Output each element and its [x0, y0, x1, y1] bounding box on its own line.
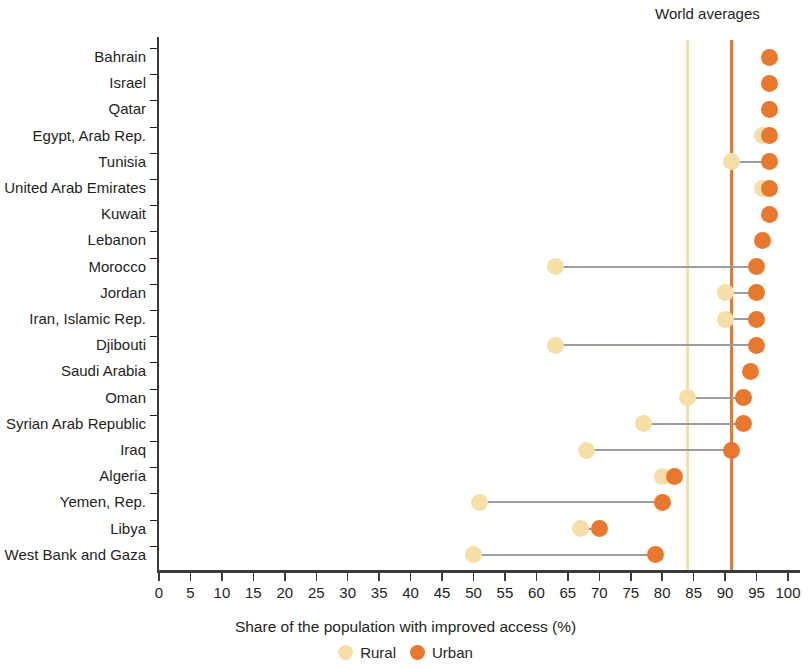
x-axis-tick [347, 573, 349, 581]
x-axis-tick-label: 45 [434, 584, 451, 601]
data-point-urban[interactable] [723, 442, 740, 459]
category-label-bahrain: Bahrain [0, 46, 146, 68]
category-label-libya: Libya [0, 518, 146, 540]
x-axis-tick-label: 75 [622, 584, 639, 601]
data-point-urban[interactable] [761, 75, 778, 92]
x-axis-tick [316, 573, 318, 581]
data-point-urban[interactable] [748, 258, 765, 275]
data-point-urban[interactable] [761, 101, 778, 118]
x-axis-tick-label: 35 [371, 584, 388, 601]
data-point-rural[interactable] [717, 311, 734, 328]
data-point-urban[interactable] [754, 232, 771, 249]
x-axis-tick-label: 70 [591, 584, 608, 601]
data-point-rural[interactable] [465, 546, 482, 563]
x-axis-tick-label: 80 [654, 584, 671, 601]
category-label-yemen-rep: Yemen, Rep. [0, 491, 146, 513]
data-point-rural[interactable] [578, 442, 595, 459]
x-axis-tick [787, 573, 789, 581]
y-axis-tick [150, 493, 157, 494]
x-axis-tick-label: 25 [308, 584, 325, 601]
y-axis-tick [150, 336, 157, 337]
category-label-kuwait: Kuwait [0, 203, 146, 225]
x-axis-tick [661, 573, 663, 581]
chart-legend: Rural Urban [0, 644, 811, 661]
connector-line [587, 449, 732, 451]
data-point-urban[interactable] [748, 284, 765, 301]
data-point-urban[interactable] [748, 311, 765, 328]
category-label-qatar: Qatar [0, 98, 146, 120]
x-axis-tick-label: 20 [276, 584, 293, 601]
dumbbell-chart: World averages BahrainIsraelQatarEgypt, … [0, 0, 811, 669]
x-axis-tick [441, 573, 443, 581]
x-axis-tick [630, 573, 632, 581]
x-axis-tick-label: 5 [186, 584, 194, 601]
data-point-urban[interactable] [761, 153, 778, 170]
data-point-urban[interactable] [654, 494, 671, 511]
data-point-rural[interactable] [635, 415, 652, 432]
legend-label-rural: Rural [360, 644, 396, 661]
y-axis-tick [150, 441, 157, 442]
x-axis-tick [378, 573, 380, 581]
x-axis-tick-label: 30 [339, 584, 356, 601]
category-label-iran-islamic-rep: Iran, Islamic Rep. [0, 308, 146, 330]
data-point-urban[interactable] [748, 337, 765, 354]
data-point-urban[interactable] [666, 468, 683, 485]
y-axis-tick [150, 127, 157, 128]
x-axis-title: Share of the population with improved ac… [0, 618, 811, 636]
data-point-rural[interactable] [547, 337, 564, 354]
category-label-west-bank-and-gaza: West Bank and Gaza [0, 544, 146, 566]
y-axis-tick [150, 48, 157, 49]
category-label-oman: Oman [0, 387, 146, 409]
x-axis-tick [599, 573, 601, 581]
y-axis-tick [150, 100, 157, 101]
data-point-urban[interactable] [735, 415, 752, 432]
x-axis-tick [756, 573, 758, 581]
legend-item-urban[interactable]: Urban [410, 644, 473, 661]
category-label-israel: Israel [0, 72, 146, 94]
y-axis-tick [150, 389, 157, 390]
data-point-urban[interactable] [647, 546, 664, 563]
data-point-urban[interactable] [735, 389, 752, 406]
x-axis-tick [693, 573, 695, 581]
x-axis-tick [567, 573, 569, 581]
x-axis-tick-label: 15 [245, 584, 262, 601]
y-axis-tick [150, 362, 157, 363]
category-label-iraq: Iraq [0, 439, 146, 461]
data-point-urban[interactable] [761, 206, 778, 223]
category-label-egypt-arab-rep: Egypt, Arab Rep. [0, 125, 146, 147]
x-axis-tick-label: 65 [560, 584, 577, 601]
y-axis-spine [157, 37, 159, 570]
data-point-rural[interactable] [572, 520, 589, 537]
plot-area: BahrainIsraelQatarEgypt, Arab Rep.Tunisi… [0, 0, 811, 669]
y-axis-tick [150, 74, 157, 75]
connector-line [480, 501, 662, 503]
data-point-urban[interactable] [761, 127, 778, 144]
category-label-algeria: Algeria [0, 465, 146, 487]
legend-item-rural[interactable]: Rural [338, 644, 396, 661]
rural-swatch-icon [338, 645, 353, 660]
data-point-rural[interactable] [547, 258, 564, 275]
category-label-morocco: Morocco [0, 256, 146, 278]
y-axis-tick [150, 205, 157, 206]
data-point-urban[interactable] [761, 180, 778, 197]
legend-label-urban: Urban [432, 644, 473, 661]
x-axis-tick-label: 60 [528, 584, 545, 601]
data-point-urban[interactable] [761, 49, 778, 66]
x-axis-tick [284, 573, 286, 581]
y-axis-tick [150, 546, 157, 547]
data-point-rural[interactable] [679, 389, 696, 406]
x-axis-tick [724, 573, 726, 581]
x-axis-tick [473, 573, 475, 581]
x-axis-tick-label: 55 [497, 584, 514, 601]
category-label-saudi-arabia: Saudi Arabia [0, 360, 146, 382]
data-point-rural[interactable] [717, 284, 734, 301]
x-axis-tick-label: 0 [155, 584, 163, 601]
data-point-rural[interactable] [723, 153, 740, 170]
y-axis-tick [150, 258, 157, 259]
y-axis-tick [150, 284, 157, 285]
y-axis-tick [150, 179, 157, 180]
data-point-rural[interactable] [471, 494, 488, 511]
data-point-urban[interactable] [742, 363, 759, 380]
category-label-united-arab-emirates: United Arab Emirates [0, 177, 146, 199]
data-point-urban[interactable] [591, 520, 608, 537]
